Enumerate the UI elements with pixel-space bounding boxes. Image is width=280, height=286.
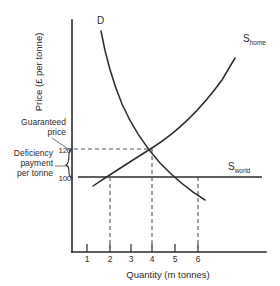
x-tick-label-5: 5 xyxy=(173,254,178,264)
diagram-canvas: 1 2 3 4 5 6 Quantity (m tonnes) Price (£… xyxy=(0,0,280,286)
x-axis-title: Quantity (m tonnes) xyxy=(126,269,209,280)
x-tick-label-2: 2 xyxy=(108,254,113,264)
supply-demand-figure: 1 2 3 4 5 6 Quantity (m tonnes) Price (£… xyxy=(0,0,280,286)
demand-curve xyxy=(101,31,205,200)
x-tick-label-6: 6 xyxy=(196,254,201,264)
home-supply-label: Shome xyxy=(243,33,266,46)
deficiency-label-line2: payment xyxy=(20,158,53,168)
deficiency-label-line3: per tonne xyxy=(17,168,53,178)
x-tick-label-1: 1 xyxy=(85,254,90,264)
x-tick-label-3: 3 xyxy=(129,254,134,264)
demand-curve-label: D xyxy=(97,15,104,26)
x-tick-label-4: 4 xyxy=(150,254,155,264)
guaranteed-price-label-line2: price xyxy=(48,127,67,137)
guaranteed-price-label-line1: Guaranteed xyxy=(21,117,66,127)
deficiency-label-line1: Deficiency xyxy=(14,148,54,158)
world-supply-label: Sworld xyxy=(228,161,251,174)
y-axis-title: Price (£ per tonne) xyxy=(33,33,44,112)
